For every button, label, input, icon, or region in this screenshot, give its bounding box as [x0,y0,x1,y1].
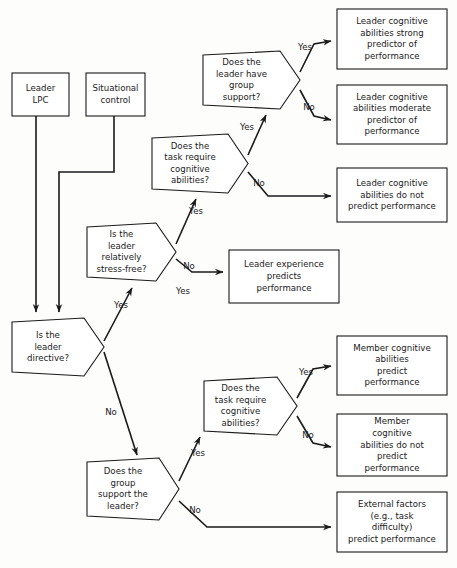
node-is-leader-directive-line-2: directive? [27,353,69,363]
node-is-leader-stress-free-line-2: relatively [102,252,142,262]
edge-label-group-no: No [189,505,201,515]
node-leader-have-group-support-line-2: group [229,80,254,90]
node-is-leader-directive-line-0: Is the [36,330,60,340]
node-member-cog-no-predict-line-3: predict [377,451,408,461]
node-is-leader-directive-line-1: leader [34,342,62,352]
node-external-factors-line-1: (e.g., task [370,511,413,521]
node-leader-have-group-support-line-0: Does the [222,57,260,67]
node-leader-lpc-line-0: Leader [26,83,56,93]
edge-label-stress-no: No [183,261,195,271]
node-external-factors-line-3: predict performance [348,534,436,544]
node-leader-have-group-support-line-3: support? [223,92,261,102]
node-group-support-leader-line-1: group [111,478,136,488]
node-member-cog-predict-line-0: Member cognitive [353,343,430,353]
edge-situational-to-directive [59,116,114,312]
node-group-support-leader-line-3: leader? [107,501,139,511]
edge-group-no [179,501,331,527]
node-leader-lpc[interactable]: LeaderLPC [12,73,69,116]
flowchart-canvas: Yes No Yes No Yes No Yes Yes No Yes No Y… [0,0,457,568]
node-leader-cog-moderate-line-1: abilities moderate [353,103,431,113]
node-member-cog-no-predict-line-1: cognitive [372,428,411,438]
node-leader-cog-moderate-line-2: predictor of [367,115,418,125]
node-external-factors-line-0: External factors [358,499,427,509]
node-leader-cog-strong-line-3: performance [364,51,419,61]
node-member-cog-no-predict[interactable]: Membercognitiveabilities do notpredictpe… [337,414,447,476]
edge-label-support-yes-lower: Yes [239,122,254,132]
edge-label-task-top-no: No [253,178,265,188]
node-leader-have-group-support-line-1: leader have [216,69,267,79]
node-leader-cog-strong-line-1: abilities strong [360,28,424,38]
node-leader-cog-strong-line-0: Leader cognitive [356,16,428,26]
edge-label-stress-yes: Yes [175,286,190,296]
node-group-support-leader-line-2: support the [98,489,148,499]
edge-label-task-bottom-no: No [302,430,314,440]
flowchart-page: Yes No Yes No Yes No Yes Yes No Yes No Y… [0,0,457,568]
node-leader-cog-strong[interactable]: Leader cognitiveabilities strongpredicto… [337,9,447,69]
edge-label-task-top-yes: Yes [188,206,203,216]
node-task-require-cognitive-bottom[interactable]: Does thetask requirecognitiveabilities? [204,377,297,435]
node-leader-experience[interactable]: Leader experiencepredictsperformance [229,250,339,303]
edge-label-directive-no: No [105,407,117,417]
node-task-require-cognitive-top[interactable]: Does thetask requirecognitiveabilities? [152,134,248,193]
node-member-cog-no-predict-line-4: performance [364,463,419,473]
node-leader-cog-no-predict-line-1: abilities do not [360,190,424,200]
node-external-factors[interactable]: External factors(e.g., taskdifficulty)pr… [337,492,447,552]
node-group-support-leader[interactable]: Does thegroupsupport theleader? [87,458,179,520]
edge-label-support-no: No [303,102,315,112]
node-is-leader-stress-free-line-1: leader [108,241,136,251]
node-situational-control-line-0: Situational [92,83,138,93]
node-is-leader-stress-free-line-0: Is the [110,229,134,239]
edge-label-group-yes: Yes [190,448,205,458]
node-external-factors-line-2: difficulty) [372,522,413,532]
edge-label-support-yes: Yes [297,42,312,52]
node-task-require-cognitive-bottom-line-1: task require [215,395,266,405]
node-leader-cog-moderate-line-3: performance [364,126,419,136]
node-leader-cog-moderate[interactable]: Leader cognitiveabilities moderatepredic… [337,85,447,144]
node-leader-experience-line-1: predicts [267,271,302,281]
edge-label-task-bottom-yes: Yes [298,367,313,377]
edge-directive-no [104,352,137,455]
node-task-require-cognitive-bottom-line-2: cognitive [221,406,260,416]
node-leader-experience-line-2: performance [256,283,311,293]
node-is-leader-directive[interactable]: Is theleaderdirective? [12,318,104,376]
node-task-require-cognitive-top-line-3: abilities? [171,175,209,185]
node-group-support-leader-line-0: Does the [104,466,142,476]
nodes: LeaderLPC Situationalcontrol Is theleade… [12,9,447,552]
node-leader-cog-no-predict[interactable]: Leader cognitiveabilities do notpredict … [337,168,447,222]
node-member-cog-predict-line-3: performance [364,377,419,387]
node-member-cog-predict-line-2: predict [377,366,408,376]
node-leader-lpc-line-1: LPC [33,95,49,105]
node-task-require-cognitive-bottom-line-3: abilities? [222,418,260,428]
edge-directive-yes [104,288,132,341]
node-leader-cog-strong-line-2: predictor of [367,39,418,49]
node-task-require-cognitive-top-line-1: task require [164,152,215,162]
node-task-require-cognitive-top-line-2: cognitive [170,164,209,174]
node-member-cog-predict[interactable]: Member cognitiveabilitiespredictperforma… [337,336,447,395]
edge-label-directive-yes: Yes [113,300,128,310]
node-leader-cog-no-predict-line-2: predict performance [348,201,436,211]
node-task-require-cognitive-top-line-0: Does the [171,141,209,151]
node-member-cog-no-predict-line-2: abilities do not [360,440,424,450]
node-leader-cog-no-predict-line-0: Leader cognitive [356,178,428,188]
node-is-leader-stress-free-line-3: stress-free? [96,264,146,274]
node-task-require-cognitive-bottom-line-0: Does the [221,383,259,393]
node-member-cog-no-predict-line-0: Member [374,416,410,426]
node-leader-have-group-support[interactable]: Does theleader havegroupsupport? [203,51,300,109]
node-leader-experience-line-0: Leader experience [244,259,324,269]
node-leader-cog-moderate-line-0: Leader cognitive [356,92,428,102]
node-situational-control-line-1: control [101,95,131,105]
node-situational-control[interactable]: Situationalcontrol [86,73,145,116]
edge-group-yes [179,437,200,481]
node-is-leader-stress-free[interactable]: Is theleaderrelativelystress-free? [87,223,176,281]
node-member-cog-predict-line-1: abilities [375,354,409,364]
